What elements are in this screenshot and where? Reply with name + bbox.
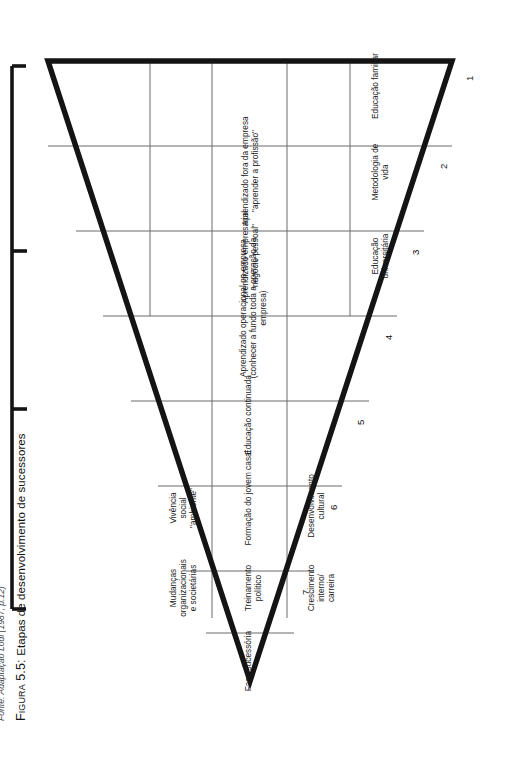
page-title: Figura 5.5: Etapas de desenvolvimento de… bbox=[14, 433, 28, 721]
source-note: Fonte: Adaptação Lodi (1987, p.12) bbox=[0, 586, 6, 721]
stage-number-4: 4 bbox=[383, 335, 394, 340]
diagram-plot-area: Educação familiar Metodologia de vida Ap… bbox=[40, 31, 460, 721]
cell-vivencia-social: Vivência social "ambiente" bbox=[168, 473, 198, 543]
cell-educacao-universitaria: Educação universitária bbox=[370, 219, 390, 293]
cell-educacao-familiar: Educação familiar bbox=[370, 49, 380, 123]
cell-educacao-continuada: Educação continuada bbox=[243, 367, 253, 463]
cell-desenvolvimento-cultural: Desenvolvimento cultural bbox=[306, 463, 326, 549]
cell-fase-sucessoria: Fase sucessória bbox=[243, 625, 253, 697]
stage-number-6: 6 bbox=[328, 505, 339, 510]
stage-number-1: 1 bbox=[464, 76, 475, 81]
figure-caption-prefix: Figura 5.5: bbox=[14, 656, 28, 721]
stage-number-5: 5 bbox=[355, 420, 366, 425]
cell-crescimento-interno: Crescimento interno/ carreira bbox=[306, 551, 336, 625]
figure-canvas: Figura 5.5: Etapas de desenvolvimento de… bbox=[0, 0, 507, 757]
cell-formacao-do-jovem-casal: Formação do jovem casal bbox=[243, 450, 253, 546]
stage-number-3: 3 bbox=[410, 250, 421, 255]
page-rotation-wrapper: Figura 5.5: Etapas de desenvolvimento de… bbox=[0, 0, 507, 757]
stage-number-7: 7 bbox=[300, 590, 311, 595]
figure-caption-text: Etapas de desenvolvimento de sucessores bbox=[15, 433, 27, 656]
cell-treinamento-politico: Treinamento político bbox=[243, 551, 263, 625]
cell-metodologia-de-vida: Metodologia de vida bbox=[370, 135, 390, 209]
cell-mudancas-organizacionais: Mudanças organizacionais e societárias bbox=[168, 551, 198, 625]
stage-number-2: 2 bbox=[438, 164, 449, 169]
